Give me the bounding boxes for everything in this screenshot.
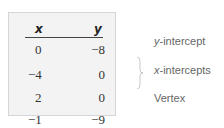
- table-cell-y: 0: [69, 68, 105, 82]
- annotation-text: -intercept: [160, 35, 206, 47]
- brace-icon: [136, 57, 144, 89]
- table-cell-x: 0: [35, 43, 63, 57]
- header-rule: [25, 37, 103, 38]
- table-cell-y: −8: [69, 43, 105, 57]
- table-cell-y: −9: [69, 113, 105, 127]
- table-cell-x: −4: [28, 68, 56, 82]
- annotation-vertex: Vertex: [154, 92, 185, 104]
- table-cell-x: 2: [35, 91, 63, 105]
- annotation-x-intercepts: x-intercepts: [154, 64, 211, 76]
- table-cell-x: −1: [28, 113, 56, 127]
- column-header-x: x: [35, 22, 43, 36]
- annotation-y-intercept: y-intercept: [154, 35, 205, 47]
- annotation-text: -intercepts: [160, 64, 211, 76]
- values-table: x y 0 −8 −4 0 2 0 −1 −9: [8, 12, 116, 116]
- column-header-y: y: [94, 22, 102, 36]
- table-cell-y: 0: [69, 91, 105, 105]
